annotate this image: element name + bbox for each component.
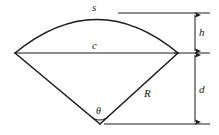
distance-label: d bbox=[199, 84, 205, 95]
sector-diagram-figure: s c R θ h d bbox=[0, 0, 219, 135]
radius-label: R bbox=[144, 88, 151, 99]
chord-label: c bbox=[92, 40, 97, 51]
height-label: h bbox=[199, 27, 205, 38]
sector-diagram-svg bbox=[0, 0, 219, 135]
radius-right-line bbox=[100, 53, 178, 124]
angle-theta-label: θ bbox=[96, 106, 101, 116]
arc-length-label: s bbox=[92, 2, 96, 13]
radius-left-line bbox=[15, 53, 100, 124]
